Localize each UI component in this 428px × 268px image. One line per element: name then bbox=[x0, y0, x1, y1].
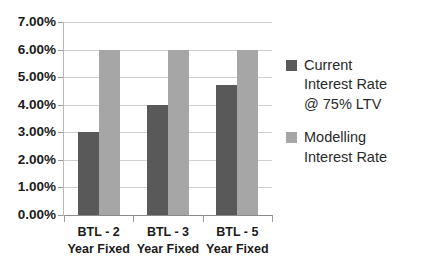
bar bbox=[168, 50, 189, 215]
x-axis-line bbox=[64, 215, 272, 216]
x-axis-tick-mark bbox=[203, 215, 204, 222]
bar bbox=[147, 105, 168, 215]
bar bbox=[216, 85, 237, 215]
y-axis-tick-label: 0.00% bbox=[0, 208, 56, 222]
y-axis-tick-label: 2.00% bbox=[0, 153, 56, 167]
y-axis-tick-label: 3.00% bbox=[0, 125, 56, 139]
bar bbox=[78, 132, 99, 215]
legend-swatch-icon bbox=[286, 60, 297, 71]
x-axis-tick-mark bbox=[64, 215, 65, 222]
y-axis-tick-label: 1.00% bbox=[0, 180, 56, 194]
gridline bbox=[64, 22, 272, 23]
y-axis-tick-label: 7.00% bbox=[0, 15, 56, 29]
y-axis-tick-label: 6.00% bbox=[0, 43, 56, 57]
bar-chart: 0.00%1.00%2.00%3.00%4.00%5.00%6.00%7.00%… bbox=[0, 0, 428, 268]
x-axis-category-label: BTL - 2 Year Fixed bbox=[64, 224, 133, 257]
legend-entry[interactable]: Current Interest Rate @ 75% LTV bbox=[286, 56, 426, 114]
plot-area bbox=[64, 22, 272, 215]
bar bbox=[237, 50, 258, 215]
y-axis-tick-label: 4.00% bbox=[0, 98, 56, 112]
bar bbox=[99, 50, 120, 215]
legend-label: Modelling Interest Rate bbox=[304, 128, 387, 167]
x-axis-category-label: BTL - 5 Year Fixed bbox=[203, 224, 272, 257]
x-axis-tick-mark bbox=[133, 215, 134, 222]
x-axis-category-label: BTL - 3 Year Fixed bbox=[133, 224, 202, 257]
legend-entry[interactable]: Modelling Interest Rate bbox=[286, 128, 426, 167]
legend-label: Current Interest Rate @ 75% LTV bbox=[304, 56, 387, 114]
x-axis-tick-mark bbox=[272, 215, 273, 222]
legend-swatch-icon bbox=[286, 132, 297, 143]
chart-legend: Current Interest Rate @ 75% LTVModelling… bbox=[286, 56, 426, 181]
y-axis-tick-label: 5.00% bbox=[0, 70, 56, 84]
